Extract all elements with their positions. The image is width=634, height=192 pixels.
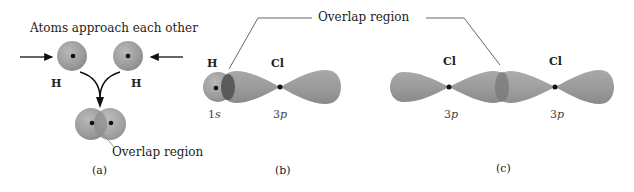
- overlap-region-c: [495, 72, 509, 102]
- orbital-label-3p-left: 3p: [444, 109, 458, 120]
- overlap-label-top: Overlap region: [318, 11, 409, 23]
- orbital-label-3p: 3p: [273, 109, 287, 120]
- nucleus-icon: [214, 86, 219, 91]
- cl1-3p-lobe-left: [390, 72, 449, 102]
- arrow-down-icon: [96, 97, 104, 108]
- panel-b: [203, 70, 341, 104]
- nucleus-icon: [126, 54, 131, 59]
- panel-a: [20, 41, 183, 147]
- overlap-leader-c: [426, 18, 500, 65]
- nucleus-icon: [553, 85, 558, 90]
- panel-label-a: (a): [92, 165, 107, 176]
- atom-label-cl-left: Cl: [443, 56, 456, 67]
- atom-label-h-right: H: [131, 78, 141, 89]
- converge-curve-right-icon: [100, 72, 120, 98]
- overlap-region-b: [221, 74, 235, 100]
- nucleus-icon: [90, 121, 95, 126]
- nucleus-icon: [109, 121, 114, 126]
- orbital-label-3p-right: 3p: [550, 109, 564, 120]
- panel-label-b: (b): [275, 165, 291, 176]
- overlap-label-a: Overlap region: [112, 146, 203, 158]
- panel-a-heading: Atoms approach each other: [30, 22, 198, 34]
- panel-c: [390, 70, 614, 104]
- cl2-3p-lobe-right: [555, 70, 614, 104]
- nucleus-icon: [447, 85, 452, 90]
- cl-3p-lobe-right: [280, 70, 341, 104]
- atom-label-h-left: H: [51, 78, 61, 89]
- nucleus-icon: [71, 54, 76, 59]
- orbital-label-1s: 1s: [208, 109, 221, 120]
- atom-label-cl-right: Cl: [549, 56, 562, 67]
- atom-label-cl: Cl: [271, 58, 284, 69]
- converge-curve-left-icon: [80, 72, 100, 98]
- atom-label-h: H: [207, 58, 217, 69]
- panel-label-c: (c): [496, 163, 511, 174]
- nucleus-icon: [278, 85, 283, 90]
